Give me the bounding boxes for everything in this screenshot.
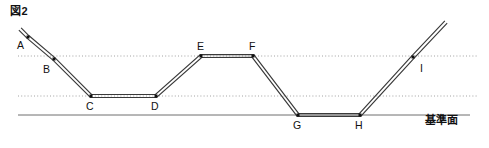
figure-container: 図2 ABCDEFGHI 基準面: [0, 0, 489, 148]
vertex-label-h: H: [355, 119, 363, 131]
vertex-label-d: D: [151, 100, 159, 112]
vertex-marker-i: [412, 56, 415, 59]
vertex-marker-d: [155, 95, 158, 98]
datum-label: 基準面: [424, 113, 458, 126]
vertex-label-i: I: [420, 62, 423, 74]
ray-edge-lower: [21, 21, 445, 114]
vertex-marker-g: [297, 114, 300, 117]
diagram-canvas: ABCDEFGHI 基準面: [0, 0, 489, 148]
vertex-marker-h: [359, 114, 362, 117]
vertex-label-a: A: [17, 39, 24, 51]
vertex-marker-f: [252, 55, 255, 58]
vertex-label-f: F: [249, 40, 255, 52]
polyline-group: [19, 21, 447, 117]
vertex-markers-group: [27, 36, 415, 117]
vertex-label-g: G: [293, 119, 301, 131]
vertex-marker-e: [200, 55, 203, 58]
datum-label-group: 基準面: [424, 113, 458, 126]
vertex-label-b: B: [43, 63, 50, 75]
ray-edge-upper: [19, 23, 447, 116]
vertex-label-c: C: [86, 100, 94, 112]
vertex-marker-c: [90, 95, 93, 98]
vertex-marker-b: [53, 58, 56, 61]
vertex-label-e: E: [197, 40, 204, 52]
vertex-marker-a: [27, 36, 30, 39]
